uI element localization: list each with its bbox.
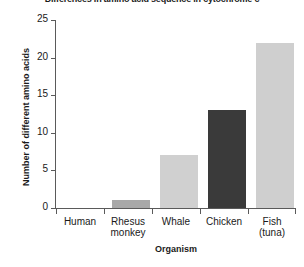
bar-fish-tuna[interactable] [256,43,294,208]
x-category-line: Whale [152,216,200,227]
x-tick-mark [104,209,105,214]
y-tick-label: 0 [42,201,48,212]
x-category-line: Rhesus [104,216,152,227]
y-tick-25: 25 [0,20,56,21]
plot-area [56,20,296,208]
y-tick-15: 15 [0,95,56,96]
chart-title: Differences in amino acid sequence in cy… [0,0,304,5]
y-tick-20: 20 [0,58,56,59]
x-axis-title: Organism [56,244,296,254]
bar-whale[interactable] [160,155,198,208]
y-tick-label: 15 [37,88,48,99]
x-category-line: Fish [248,216,296,227]
y-axis-title: Number of different amino acids [21,47,31,187]
x-category-label-human: Human [56,216,104,227]
x-category-line: Human [56,216,104,227]
bar-rhesus-monkey[interactable] [112,200,150,208]
x-category-line: monkey [104,227,152,238]
y-tick-0: 0 [0,208,56,209]
x-tick-mark [295,209,296,214]
y-tick-label: 25 [37,13,48,24]
x-category-label-whale: Whale [152,216,200,227]
y-tick-5: 5 [0,170,56,171]
y-tick-label: 10 [37,126,48,137]
x-category-label-rhesus-monkey: Rhesus monkey [104,216,152,238]
x-axis-line [55,208,296,209]
y-tick-10: 10 [0,133,56,134]
x-category-line: Chicken [200,216,248,227]
x-category-label-fish-tuna: Fish (tuna) [248,216,296,238]
x-tick-mark [248,209,249,214]
y-tick-label: 5 [42,163,48,174]
x-tick-mark [200,209,201,214]
x-category-line: (tuna) [248,227,296,238]
bar-chicken[interactable] [208,110,246,208]
x-tick-mark [56,209,57,214]
x-category-label-chicken: Chicken [200,216,248,227]
bar-chart-figure: Differences in amino acid sequence in cy… [0,0,304,267]
y-tick-label: 20 [37,51,48,62]
x-tick-mark [152,209,153,214]
